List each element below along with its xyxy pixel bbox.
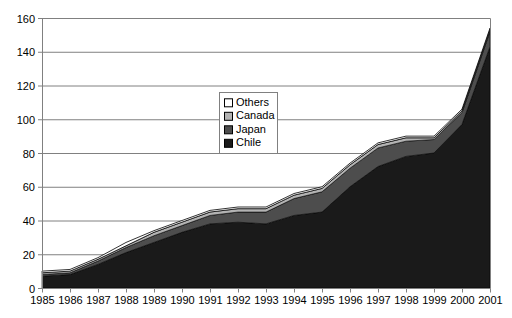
y-tick-label-140: 140 bbox=[17, 46, 35, 58]
legend-swatch-chile bbox=[225, 139, 233, 147]
legend-swatch-canada bbox=[225, 112, 233, 120]
x-tick-label-1997: 1997 bbox=[366, 294, 390, 306]
legend-label-canada: Canada bbox=[236, 109, 275, 121]
chart-canvas: 020406080100120140160 198519861987198819… bbox=[0, 0, 512, 318]
x-tick-label-1991: 1991 bbox=[198, 294, 222, 306]
y-tick-label-60: 60 bbox=[23, 181, 35, 193]
y-tick-label-80: 80 bbox=[23, 148, 35, 160]
y-tick-label-120: 120 bbox=[17, 80, 35, 92]
legend-swatch-japan bbox=[225, 126, 233, 134]
x-tick-label-1988: 1988 bbox=[114, 294, 138, 306]
x-tick-label-1998: 1998 bbox=[394, 294, 418, 306]
legend-label-others: Others bbox=[236, 96, 270, 108]
legend-label-chile: Chile bbox=[236, 136, 261, 148]
y-tick-label-40: 40 bbox=[23, 215, 35, 227]
y-tick-label-20: 20 bbox=[23, 249, 35, 261]
x-tick-label-2000: 2000 bbox=[450, 294, 474, 306]
x-tick-label-1990: 1990 bbox=[170, 294, 194, 306]
chart-legend: OthersCanadaJapanChile bbox=[220, 93, 278, 154]
x-tick-label-1995: 1995 bbox=[310, 294, 334, 306]
legend-label-japan: Japan bbox=[236, 123, 266, 135]
x-tick-label-1994: 1994 bbox=[282, 294, 306, 306]
x-tick-label-1992: 1992 bbox=[226, 294, 250, 306]
x-tick-label-1987: 1987 bbox=[86, 294, 110, 306]
x-tick-label-1989: 1989 bbox=[142, 294, 166, 306]
x-tick-label-1985: 1985 bbox=[30, 294, 54, 306]
x-tick-label-1996: 1996 bbox=[338, 294, 362, 306]
y-tick-label-0: 0 bbox=[29, 283, 35, 295]
y-tick-label-160: 160 bbox=[17, 13, 35, 25]
x-tick-label-2001: 2001 bbox=[478, 294, 502, 306]
y-tick-label-100: 100 bbox=[17, 114, 35, 126]
x-tick-label-1986: 1986 bbox=[58, 294, 82, 306]
legend-swatch-others bbox=[225, 99, 233, 107]
stacked-area-chart: 020406080100120140160 198519861987198819… bbox=[0, 0, 512, 318]
x-tick-label-1993: 1993 bbox=[254, 294, 278, 306]
x-tick-label-1999: 1999 bbox=[422, 294, 446, 306]
